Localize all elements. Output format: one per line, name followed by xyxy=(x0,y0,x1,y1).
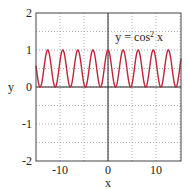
y-tick-label: 0 xyxy=(26,80,32,94)
curve-annotation: y = cos2 x xyxy=(115,30,163,44)
y-axis-label: y xyxy=(8,80,14,94)
x-axis-label: x xyxy=(105,176,111,189)
x-tick-label: -10 xyxy=(52,163,68,177)
x-tick-label: 0 xyxy=(105,163,111,177)
y-tick-label: -2 xyxy=(22,154,32,168)
chart-figure: -10010-2-1012 y = cos2 x x y xyxy=(0,0,188,189)
y-tick-label: 1 xyxy=(26,43,32,57)
x-tick-label: 10 xyxy=(150,163,162,177)
y-tick-label: -1 xyxy=(22,117,32,131)
y-tick-label: 2 xyxy=(26,6,32,20)
